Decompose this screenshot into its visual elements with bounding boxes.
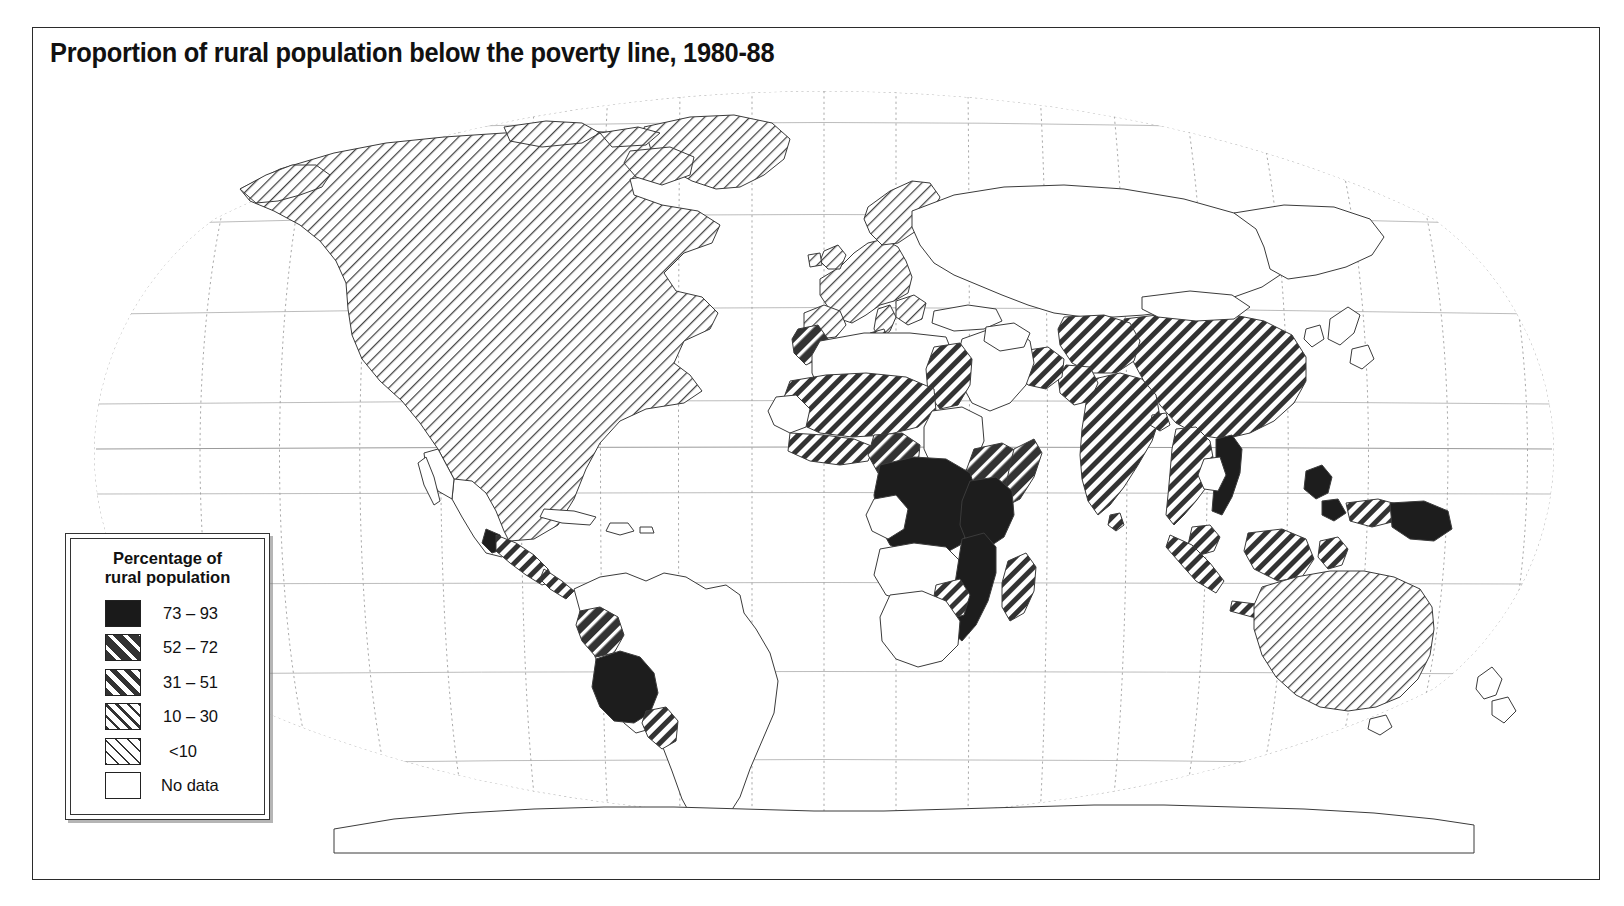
legend-label-nodata: No data bbox=[161, 776, 219, 795]
landmasses bbox=[240, 115, 1516, 853]
region-antarctica bbox=[334, 805, 1474, 853]
legend-label-52-72: 52 – 72 bbox=[163, 638, 218, 657]
region-sulawesi bbox=[1318, 537, 1348, 569]
legend-title-line1: Percentage of bbox=[77, 549, 258, 568]
region-png-black bbox=[1390, 501, 1452, 541]
legend-swatch-10-30 bbox=[105, 703, 141, 730]
region-japan-2 bbox=[1350, 345, 1374, 369]
region-borneo bbox=[1244, 529, 1314, 581]
legend-item-lt10: <10 bbox=[71, 734, 264, 769]
legend-rows: 73 – 93 52 – 72 31 – 51 10 – 30 <10 bbox=[71, 596, 264, 803]
legend-item-10-30: 10 – 30 bbox=[71, 700, 264, 735]
legend-label-10-30: 10 – 30 bbox=[163, 707, 218, 726]
legend-inner-box: Percentage of rural population 73 – 93 5… bbox=[70, 538, 265, 815]
region-ireland bbox=[808, 253, 822, 267]
region-guinea-coast bbox=[788, 433, 874, 465]
legend-item-52-72: 52 – 72 bbox=[71, 631, 264, 666]
region-new-zealand bbox=[1476, 667, 1502, 699]
region-panama bbox=[540, 569, 574, 599]
legend-swatch-52-72 bbox=[105, 634, 141, 661]
region-balkans bbox=[896, 295, 926, 325]
region-hispaniola bbox=[606, 523, 634, 535]
region-new-zealand-2 bbox=[1492, 697, 1516, 723]
region-puerto-rico bbox=[640, 527, 654, 533]
legend-swatch-nodata bbox=[105, 772, 141, 799]
region-srilanka bbox=[1108, 513, 1124, 531]
legend-swatch-73-93 bbox=[105, 600, 141, 627]
legend-item-73-93: 73 – 93 bbox=[71, 596, 264, 631]
legend-label-31-51: 31 – 51 bbox=[163, 673, 218, 692]
figure-root: Proportion of rural population below the… bbox=[0, 0, 1624, 906]
legend-label-73-93: 73 – 93 bbox=[163, 604, 218, 623]
region-korea bbox=[1304, 325, 1324, 347]
region-philippines-2 bbox=[1322, 499, 1346, 521]
legend-swatch-lt10 bbox=[105, 738, 141, 765]
region-japan bbox=[1328, 307, 1360, 345]
legend-swatch-31-51 bbox=[105, 669, 141, 696]
legend-title-line2: rural population bbox=[77, 568, 258, 587]
region-madagascar bbox=[1002, 553, 1036, 621]
region-canada-usa bbox=[240, 131, 720, 541]
region-baffin bbox=[624, 147, 694, 185]
region-tasmania bbox=[1368, 715, 1392, 735]
region-central-asia bbox=[1058, 315, 1140, 373]
legend-label-lt10: <10 bbox=[169, 742, 197, 761]
legend-item-nodata: No data bbox=[71, 769, 264, 804]
region-australia bbox=[1254, 571, 1434, 711]
legend-item-31-51: 31 – 51 bbox=[71, 665, 264, 700]
map-legend: Percentage of rural population 73 – 93 5… bbox=[65, 533, 270, 820]
legend-title: Percentage of rural population bbox=[71, 539, 264, 587]
